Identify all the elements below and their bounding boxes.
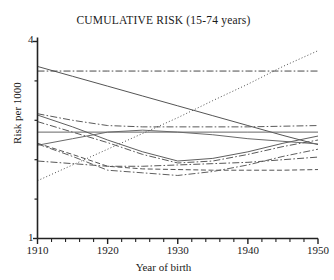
data-series-series-9 [38,144,319,176]
data-series-series-8 [38,143,319,170]
data-series-series-10 [38,157,319,166]
data-series-series-4 [38,114,319,127]
data-series-series-5 [38,115,319,161]
data-series-series-7 [38,122,319,163]
data-series-series-1 [38,66,319,144]
